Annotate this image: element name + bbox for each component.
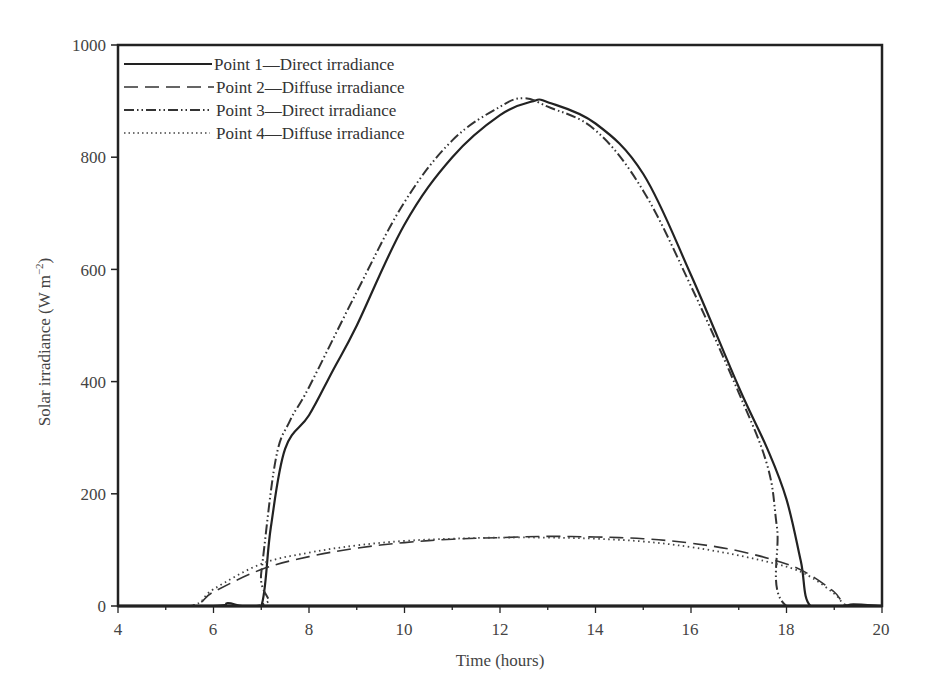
y-axis-title: Solar irradiance (W m−2) <box>33 258 54 427</box>
x-axis-title: Time (hours) <box>456 651 545 670</box>
x-tick-label: 4 <box>114 620 123 639</box>
legend-label: Point 2—Diffuse irradiance <box>216 78 405 97</box>
y-axis-title-superscript: −2 <box>33 263 45 275</box>
series-line-point-2 <box>118 536 882 606</box>
legend-item-point-2: Point 2—Diffuse irradiance <box>124 78 405 97</box>
y-tick-label: 800 <box>81 148 107 167</box>
x-tick-label: 16 <box>682 620 699 639</box>
legend: Point 1—Direct irradiance Point 2—Diffus… <box>124 55 405 143</box>
legend-label: Point 3—Direct irradiance <box>216 101 396 120</box>
x-tick-label: 12 <box>492 620 509 639</box>
y-tick-label: 400 <box>81 373 107 392</box>
series-line-point-1 <box>118 99 882 606</box>
y-tick-label: 0 <box>98 597 107 616</box>
x-tick-label: 6 <box>209 620 218 639</box>
x-tick-label: 8 <box>305 620 314 639</box>
chart-canvas: 0 200 400 600 800 1000 4 6 8 10 12 14 16… <box>0 0 925 698</box>
legend-item-point-4: Point 4—Diffuse irradiance <box>124 124 405 143</box>
x-tick-label: 20 <box>873 620 890 639</box>
legend-item-point-1: Point 1—Direct irradiance <box>124 55 394 74</box>
x-tick-label: 10 <box>396 620 413 639</box>
x-tick-label: 18 <box>778 620 795 639</box>
series-line-point-4 <box>118 537 882 606</box>
y-axis-title-close: ) <box>35 258 54 264</box>
x-tick-label: 14 <box>587 620 605 639</box>
series-group <box>118 98 882 606</box>
legend-label: Point 1—Direct irradiance <box>214 55 394 74</box>
y-tick-label: 200 <box>81 485 107 504</box>
y-tick-label: 1000 <box>72 36 106 55</box>
y-tick-label: 600 <box>81 261 107 280</box>
legend-item-point-3: Point 3—Direct irradiance <box>124 101 396 120</box>
series-line-point-3 <box>118 98 882 606</box>
legend-label: Point 4—Diffuse irradiance <box>216 124 405 143</box>
y-axis-title-main: Solar irradiance (W m <box>35 275 54 426</box>
